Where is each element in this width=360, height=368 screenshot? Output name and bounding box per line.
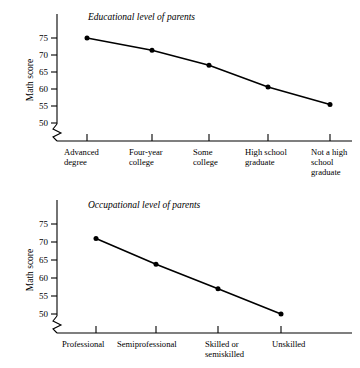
occupation-ytick-55: 55 xyxy=(39,291,49,301)
education-point-four-year-college xyxy=(150,48,155,53)
education-point-not-a-high-school-graduate xyxy=(328,102,333,107)
education-ytick-65: 65 xyxy=(39,67,49,77)
education-data-line xyxy=(87,38,330,105)
occupation-ytick-70: 70 xyxy=(39,237,49,247)
chart-education-panel: 75 70 65 60 55 50 Math score Educational… xyxy=(0,0,360,190)
occupation-plot-svg: 75 70 65 60 55 50 Math score Occupationa… xyxy=(0,190,360,368)
education-axis-break-icon xyxy=(53,124,61,141)
education-chart-title: Educational level of parents xyxy=(87,12,195,22)
education-x-ticks xyxy=(87,134,330,141)
occupation-y-ticks xyxy=(51,224,57,314)
occupation-data-line xyxy=(96,238,281,314)
occupation-ytick-75: 75 xyxy=(39,219,49,229)
education-ytick-70: 70 xyxy=(39,50,49,60)
education-ytick-50: 50 xyxy=(39,118,49,128)
education-ytick-60: 60 xyxy=(39,84,49,94)
education-point-advanced-degree xyxy=(85,36,90,41)
education-plot-svg: 75 70 65 60 55 50 Math score Educational… xyxy=(0,0,360,190)
occupation-x-ticks xyxy=(96,326,281,333)
occupation-point-professional xyxy=(94,236,99,241)
occupation-ytick-60: 60 xyxy=(39,273,49,283)
education-data-points xyxy=(85,36,333,108)
education-ytick-75: 75 xyxy=(39,33,49,43)
education-point-high-school-graduate xyxy=(266,85,271,90)
education-y-axis-title: Math score xyxy=(25,59,35,101)
occupation-point-semiprofessional xyxy=(154,262,159,267)
occupation-ytick-65: 65 xyxy=(39,255,49,265)
education-ytick-55: 55 xyxy=(39,101,49,111)
education-y-ticks xyxy=(51,38,57,123)
education-point-some-college xyxy=(207,63,212,68)
occupation-point-unskilled xyxy=(279,312,284,317)
occupation-y-axis-title: Math score xyxy=(25,249,35,291)
occupation-chart-title: Occupational level of parents xyxy=(88,200,201,210)
chart-occupation-panel: 75 70 65 60 55 50 Math score Occupationa… xyxy=(0,190,360,368)
occupation-point-skilled-or-semiskilled xyxy=(216,286,221,291)
occupation-axis-break-icon xyxy=(53,316,61,333)
occupation-ytick-50: 50 xyxy=(39,309,49,319)
